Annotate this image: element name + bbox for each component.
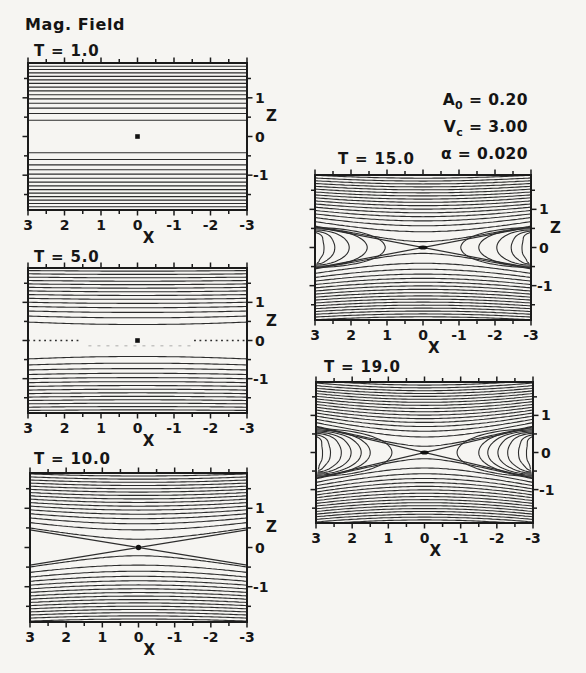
x-tick-label: 1 bbox=[382, 327, 392, 343]
z-tick-label: 1 bbox=[255, 294, 265, 310]
origin-marker bbox=[419, 245, 428, 249]
x-tick-label: 0 bbox=[134, 629, 144, 645]
origin-marker bbox=[136, 545, 141, 550]
origin-marker bbox=[135, 134, 140, 139]
x-tick-label: -2 bbox=[203, 217, 219, 233]
x-tick-label: -2 bbox=[489, 530, 505, 546]
x-tick-label: -1 bbox=[451, 327, 467, 343]
x-tick-label: -1 bbox=[166, 217, 182, 233]
contour-plot-t1: 3210-1-2-3X10-1Z bbox=[10, 51, 295, 256]
x-tick-label: 2 bbox=[61, 629, 71, 645]
figure-title: Mag. Field bbox=[25, 15, 125, 34]
x-tick-label: -3 bbox=[523, 327, 539, 343]
x-tick-label: -1 bbox=[166, 420, 182, 436]
x-axis-label: X bbox=[144, 641, 156, 659]
x-tick-label: 1 bbox=[383, 530, 393, 546]
x-axis-label: X bbox=[428, 339, 440, 357]
x-tick-label: 0 bbox=[133, 217, 143, 233]
x-tick-label: 1 bbox=[97, 629, 107, 645]
parameter-row: A0 = 0.20 bbox=[360, 91, 528, 112]
x-tick-label: -3 bbox=[239, 217, 255, 233]
param-symbol: V bbox=[444, 118, 456, 136]
figure-canvas: Mag. Field A0 = 0.20Vc = 3.00α = 0.020 T… bbox=[0, 0, 586, 673]
z-tick-label: -1 bbox=[253, 371, 269, 387]
z-axis-label: Z bbox=[266, 518, 277, 536]
z-tick-label: 1 bbox=[255, 500, 265, 516]
x-tick-label: 3 bbox=[23, 420, 33, 436]
z-tick-label: 0 bbox=[539, 240, 549, 256]
origin-marker bbox=[420, 450, 428, 454]
x-tick-label: 3 bbox=[310, 327, 320, 343]
z-tick-label: -1 bbox=[253, 579, 269, 595]
parameter-row: Vc = 3.00 bbox=[360, 118, 528, 139]
param-symbol: α bbox=[441, 145, 452, 163]
z-tick-label: 0 bbox=[541, 445, 551, 461]
x-axis-label: X bbox=[143, 432, 155, 450]
z-tick-label: -1 bbox=[537, 278, 553, 294]
param-value: = 0.020 bbox=[452, 145, 528, 163]
z-tick-label: -1 bbox=[253, 167, 269, 183]
z-tick-label: 1 bbox=[539, 201, 549, 217]
z-tick-label: 0 bbox=[255, 333, 265, 349]
x-tick-label: -3 bbox=[239, 629, 255, 645]
contour-plot-t15: 3210-1-2-3X10-1Z bbox=[297, 163, 579, 366]
contour-plot-t10: 3210-1-2-3X10-1Z bbox=[12, 461, 295, 668]
x-axis-label: X bbox=[143, 229, 155, 247]
x-tick-label: -1 bbox=[453, 530, 469, 546]
contour-plot-t19: 3210-1-2-3X10-1 bbox=[298, 370, 581, 569]
param-subscript: 0 bbox=[455, 99, 463, 112]
x-tick-label: 2 bbox=[60, 217, 70, 233]
x-tick-label: -1 bbox=[167, 629, 183, 645]
z-tick-label: 0 bbox=[255, 540, 265, 556]
z-tick-label: 0 bbox=[255, 129, 265, 145]
x-tick-label: 2 bbox=[346, 327, 356, 343]
x-tick-label: 3 bbox=[23, 217, 33, 233]
x-tick-label: -2 bbox=[487, 327, 503, 343]
param-value: = 3.00 bbox=[463, 118, 528, 136]
x-tick-label: -3 bbox=[239, 420, 255, 436]
x-tick-label: 2 bbox=[60, 420, 70, 436]
z-tick-label: 1 bbox=[541, 407, 551, 423]
z-tick-label: 1 bbox=[255, 90, 265, 106]
contour-plot-t5: 3210-1-2-3X10-1Z bbox=[10, 256, 295, 459]
axis-labels: 3210-1-2-3X10-1Z bbox=[310, 201, 561, 357]
x-tick-label: -2 bbox=[203, 629, 219, 645]
z-tick-label: -1 bbox=[539, 482, 555, 498]
param-value: = 0.20 bbox=[463, 91, 528, 109]
param-symbol: A bbox=[443, 91, 455, 109]
x-tick-label: 0 bbox=[420, 530, 430, 546]
x-tick-label: 0 bbox=[418, 327, 428, 343]
x-tick-label: -2 bbox=[203, 420, 219, 436]
x-tick-label: 3 bbox=[311, 530, 321, 546]
x-tick-label: 2 bbox=[347, 530, 357, 546]
z-axis-label: Z bbox=[266, 107, 277, 125]
origin-marker bbox=[135, 338, 140, 343]
x-tick-label: -3 bbox=[525, 530, 541, 546]
x-tick-label: 3 bbox=[25, 629, 35, 645]
x-tick-label: 0 bbox=[133, 420, 143, 436]
x-tick-label: 1 bbox=[96, 420, 106, 436]
x-axis-label: X bbox=[430, 542, 442, 560]
z-axis-label: Z bbox=[266, 312, 277, 330]
z-axis-label: Z bbox=[550, 219, 561, 237]
x-tick-label: 1 bbox=[96, 217, 106, 233]
